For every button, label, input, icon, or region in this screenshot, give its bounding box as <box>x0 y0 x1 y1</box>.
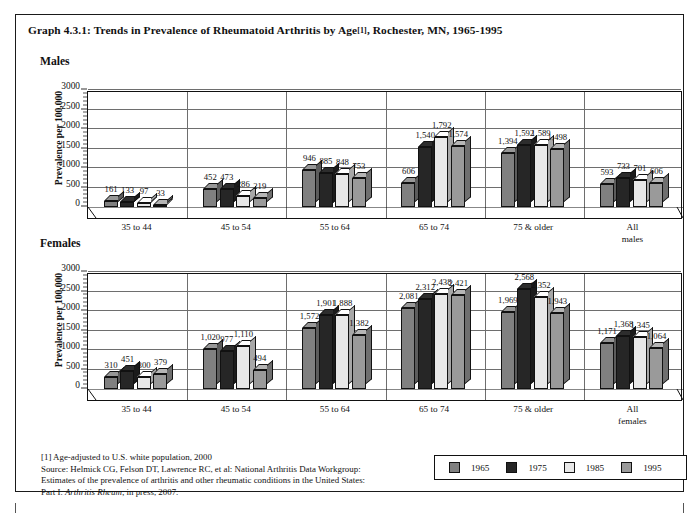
legend-label: 1975 <box>528 463 546 473</box>
y-minor-tick <box>83 302 87 303</box>
bar-group: 1,3941,5921,5891,498 <box>501 90 565 207</box>
bar-value-label: 452 <box>204 172 217 182</box>
bar-front-face <box>137 203 151 207</box>
bar-front-face <box>401 183 415 207</box>
bar: 977 <box>220 351 234 389</box>
bar: 848 <box>335 174 349 207</box>
y-minor-tick <box>83 376 87 377</box>
bar-front-face <box>401 308 415 389</box>
category-separator <box>485 274 486 400</box>
bar-front-face <box>550 313 564 389</box>
bar-front-face <box>335 315 349 389</box>
y-minor-tick <box>83 120 87 121</box>
bar-value-label: 1,498 <box>548 132 568 142</box>
figure-title-main: Graph 4.3.1: Trends in Prevalence of Rhe… <box>28 24 357 36</box>
bar-value-label: 133 <box>121 185 134 195</box>
y-minor-tick <box>83 364 87 365</box>
bar: 1,064 <box>649 348 663 389</box>
y-tick-mark <box>81 349 87 350</box>
bar: 2,421 <box>451 295 465 389</box>
bar: 286 <box>236 196 250 207</box>
gridline <box>88 310 681 311</box>
chart-legend: 1965197519851995 <box>434 455 687 480</box>
bar-front-face <box>253 198 267 207</box>
bar: 733 <box>616 178 630 207</box>
legend-swatch <box>564 462 575 473</box>
bar-front-face <box>220 189 234 207</box>
y-tick-mark <box>81 368 87 369</box>
bar-group: 6061,5401,7921,574 <box>401 90 465 207</box>
bar-side-face <box>663 337 669 384</box>
y-minor-tick <box>83 274 87 275</box>
bar: 1,382 <box>352 335 366 389</box>
gridline <box>88 349 681 350</box>
x-axis-category-label-line1: 35 to 44 <box>122 222 152 234</box>
bar: 1,020 <box>203 349 217 389</box>
x-axis-category-label-line2: females <box>618 416 647 428</box>
bar-front-face <box>352 178 366 207</box>
bar-front-face <box>600 184 614 207</box>
y-minor-tick <box>83 124 87 125</box>
bar-front-face <box>120 202 134 207</box>
bar-front-face <box>153 205 167 208</box>
gridline <box>88 271 681 272</box>
legend-item[interactable]: 1985 <box>564 462 604 473</box>
bar-front-face <box>352 335 366 389</box>
y-tick-label: 0 <box>75 380 80 390</box>
panel-label-females: Females <box>40 237 81 250</box>
bar-value-label: 606 <box>650 166 663 176</box>
bar-value-label: 885 <box>319 156 332 166</box>
y-tick-label: 2500 <box>61 101 80 111</box>
legend-item[interactable]: 1965 <box>449 462 489 473</box>
legend-item[interactable]: 1975 <box>506 462 546 473</box>
y-minor-tick <box>83 131 87 132</box>
y-minor-tick <box>83 92 87 93</box>
y-tick-mark <box>81 271 87 272</box>
y-tick-label: 1500 <box>61 140 80 150</box>
bar-front-face <box>616 178 630 207</box>
y-minor-tick <box>83 143 87 144</box>
y-minor-tick <box>83 286 87 287</box>
bar-front-face <box>120 371 134 389</box>
bar: 97 <box>137 203 151 207</box>
bar-value-label: 310 <box>105 360 118 370</box>
bar: 1,574 <box>451 146 465 207</box>
y-minor-tick <box>83 190 87 191</box>
legend-item[interactable]: 1995 <box>621 462 661 473</box>
category-separator <box>485 92 486 218</box>
bar-value-label: 300 <box>138 360 151 370</box>
bar-group: 1611339733 <box>104 90 168 207</box>
bar-front-face <box>633 180 647 207</box>
bar-front-face <box>534 145 548 207</box>
x-axis-category-label-line1: 55 to 64 <box>320 404 350 416</box>
gridline <box>88 89 681 90</box>
y-tick-mark <box>81 128 87 129</box>
bar-group: 1,0209771,110494 <box>203 272 267 389</box>
crop-tick-left <box>15 503 16 513</box>
y-minor-tick <box>83 372 87 373</box>
gridline <box>88 109 681 110</box>
bar-side-face <box>366 325 372 384</box>
x-axis-category-label-line1: All <box>618 404 647 416</box>
bar-value-label: 1,969 <box>498 295 518 305</box>
bar-group: 946885848753 <box>302 90 366 207</box>
y-tick-mark <box>81 310 87 311</box>
bar-group: 1,5721,9011,8881,382 <box>302 272 366 389</box>
figure-title-suffix: , Rochester, MN, 1965-1995 <box>367 24 503 36</box>
chart-males: Prevalence per 100,000 05001000150020002… <box>16 73 685 238</box>
y-tick-mark <box>81 206 87 207</box>
bar-front-face <box>649 183 663 207</box>
y-tick-mark <box>81 167 87 168</box>
bar: 2,081 <box>401 308 415 389</box>
crop-tick-right <box>683 503 684 513</box>
bar: 1,901 <box>319 315 333 389</box>
bar-front-face <box>616 336 630 389</box>
bar: 2,352 <box>534 297 548 389</box>
bar-side-face <box>564 303 570 384</box>
bar: 701 <box>633 180 647 207</box>
x-axis-category-label-line1: 55 to 64 <box>320 222 350 234</box>
bar-value-label: 1,345 <box>630 320 650 330</box>
bar: 310 <box>104 377 118 389</box>
figure-frame: Graph 4.3.1: Trends in Prevalence of Rhe… <box>15 14 684 492</box>
y-minor-tick <box>83 345 87 346</box>
